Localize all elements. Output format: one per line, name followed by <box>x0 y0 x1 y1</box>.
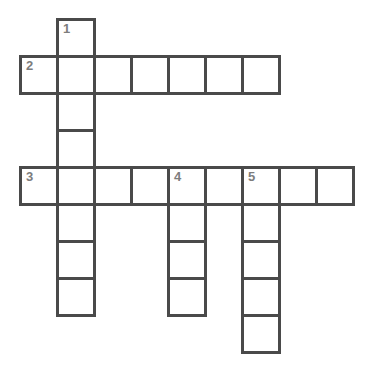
clue-number-4: 4 <box>174 170 181 184</box>
crossword-cell-numbered[interactable]: 4 <box>167 166 207 206</box>
crossword-cell[interactable] <box>130 166 170 206</box>
clue-number-3: 3 <box>26 170 33 184</box>
crossword-cell[interactable] <box>241 314 281 354</box>
crossword-cell[interactable] <box>56 92 96 132</box>
crossword-cell[interactable] <box>56 277 96 317</box>
crossword-cell[interactable] <box>56 203 96 243</box>
clue-number-2: 2 <box>26 59 33 73</box>
crossword-cell[interactable] <box>241 55 281 95</box>
crossword-cell-numbered[interactable]: 5 <box>241 166 281 206</box>
crossword-cell[interactable] <box>167 240 207 280</box>
crossword-cell-numbered[interactable]: 1 <box>56 18 96 58</box>
crossword-cell[interactable] <box>204 55 244 95</box>
crossword-cell[interactable] <box>93 55 133 95</box>
crossword-cell[interactable] <box>167 277 207 317</box>
crossword-cell[interactable] <box>167 203 207 243</box>
crossword-cell[interactable] <box>241 203 281 243</box>
clue-number-1: 1 <box>63 22 70 36</box>
crossword-grid: 12345 <box>0 0 368 380</box>
crossword-cell[interactable] <box>56 240 96 280</box>
crossword-cell[interactable] <box>241 240 281 280</box>
crossword-cell[interactable] <box>315 166 355 206</box>
crossword-cell[interactable] <box>204 166 244 206</box>
crossword-cell[interactable] <box>56 166 96 206</box>
crossword-cell-numbered[interactable]: 2 <box>19 55 59 95</box>
crossword-cell-numbered[interactable]: 3 <box>19 166 59 206</box>
crossword-cell[interactable] <box>241 277 281 317</box>
crossword-cell[interactable] <box>56 55 96 95</box>
crossword-cell[interactable] <box>93 166 133 206</box>
crossword-cell[interactable] <box>56 129 96 169</box>
crossword-cell[interactable] <box>167 55 207 95</box>
crossword-cell[interactable] <box>278 166 318 206</box>
clue-number-5: 5 <box>248 170 255 184</box>
crossword-cell[interactable] <box>130 55 170 95</box>
